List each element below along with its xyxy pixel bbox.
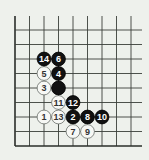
move-number: 10 xyxy=(97,112,107,122)
white-stone-1: 1 xyxy=(37,110,51,124)
black-stone-10: 10 xyxy=(95,110,109,124)
black-stone-2: 2 xyxy=(66,110,80,124)
move-number: 2 xyxy=(70,112,75,122)
white-stone-9: 9 xyxy=(81,125,95,139)
move-number: 9 xyxy=(85,127,90,137)
move-number: 1 xyxy=(41,112,46,122)
black-stone xyxy=(52,81,66,95)
white-stone-13: 13 xyxy=(52,110,66,124)
move-number: 14 xyxy=(39,54,49,64)
white-stone-7: 7 xyxy=(66,125,80,139)
white-stone-11: 11 xyxy=(52,96,66,110)
black-stone-12: 12 xyxy=(66,96,80,110)
move-number: 11 xyxy=(54,98,64,108)
move-number: 3 xyxy=(41,83,46,93)
move-number: 7 xyxy=(70,127,75,137)
white-stone-5: 5 xyxy=(37,67,51,81)
black-stone-6: 6 xyxy=(52,52,66,66)
black-stone-8: 8 xyxy=(81,110,95,124)
move-number: 13 xyxy=(54,112,64,122)
move-number: 8 xyxy=(85,112,90,122)
black-stone-14: 14 xyxy=(37,52,51,66)
move-number: 12 xyxy=(68,98,78,108)
go-board-diagram: 1234567891011121314 xyxy=(0,0,149,160)
move-number: 4 xyxy=(56,69,61,79)
stone-circle xyxy=(52,81,66,95)
black-stone-4: 4 xyxy=(52,67,66,81)
move-number: 5 xyxy=(41,69,46,79)
white-stone-3: 3 xyxy=(37,81,51,95)
move-number: 6 xyxy=(56,54,61,64)
